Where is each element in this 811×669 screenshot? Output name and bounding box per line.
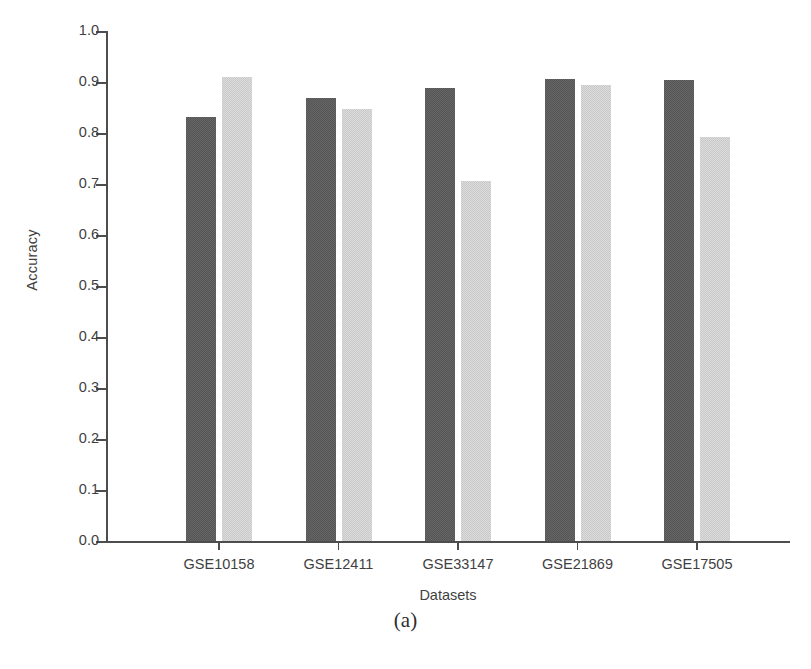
bar [186, 117, 216, 541]
figure-panel: Accuracy 0.00.10.20.30.40.50.60.70.80.91… [0, 0, 811, 669]
x-tick-mark [338, 541, 340, 550]
x-tick-mark [218, 541, 220, 550]
y-tick-label: 0.6 [79, 225, 99, 244]
bar [545, 79, 575, 541]
y-tick-label: 0.5 [79, 276, 99, 295]
plot-area: 0.00.10.20.30.40.50.60.70.80.91.0 GSE101… [106, 31, 790, 541]
bar [342, 109, 372, 541]
y-tick-label: 0.9 [79, 72, 99, 91]
figure-caption: (a) [0, 608, 811, 633]
y-tick-label: 0.1 [79, 480, 99, 499]
bar [581, 85, 611, 541]
x-category-label: GSE21869 [542, 556, 613, 572]
x-tick-mark [696, 541, 698, 550]
y-axis-label: Accuracy [24, 210, 40, 310]
y-tick-label: 1.0 [79, 21, 99, 40]
x-axis-label: Datasets [419, 587, 476, 603]
x-category-label: GSE10158 [184, 556, 255, 572]
x-category-label: GSE12411 [304, 556, 374, 572]
x-axis-line [106, 541, 790, 543]
bar [664, 80, 694, 541]
y-tick-label: 0.7 [79, 174, 99, 193]
x-category-label: GSE33147 [423, 556, 494, 572]
y-tick-label: 0.8 [79, 123, 99, 142]
bar [700, 137, 730, 541]
x-tick-mark [577, 541, 579, 550]
y-axis-line [106, 31, 108, 541]
x-tick-mark [457, 541, 459, 550]
y-tick-label: 0.4 [79, 327, 99, 346]
y-tick-label: 0.2 [79, 429, 99, 448]
bar [222, 77, 252, 541]
bar [306, 98, 336, 541]
y-tick-label: 0.0 [79, 531, 99, 550]
y-tick-label: 0.3 [79, 378, 99, 397]
x-category-label: GSE17505 [662, 556, 733, 572]
bar [425, 88, 455, 541]
bar [461, 181, 491, 541]
